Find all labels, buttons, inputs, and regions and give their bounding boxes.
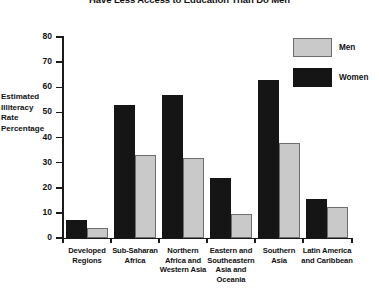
- bar-women-3: [162, 95, 183, 238]
- bar-men-3: [183, 158, 204, 238]
- y-axis-tick-label: 50: [22, 107, 52, 116]
- x-axis-category-label-line: Asia and: [200, 265, 262, 275]
- bar-women-6: [306, 199, 327, 238]
- x-axis-tick: [110, 238, 112, 243]
- y-axis-tick-label: 70: [22, 57, 52, 66]
- x-axis-tick: [158, 238, 160, 243]
- y-axis-tick-label: 40: [22, 133, 52, 142]
- x-axis-tick: [206, 238, 208, 243]
- bar-women-5: [258, 80, 279, 238]
- bar-men-1: [87, 228, 108, 238]
- y-axis-tick-label: 30: [22, 158, 52, 167]
- chart-title: Have Less Access to Education Than Do Me…: [0, 0, 379, 5]
- y-axis-tick-label: 80: [22, 32, 52, 41]
- illiteracy-rate-bar-chart: Have Less Access to Education Than Do Me…: [0, 0, 379, 290]
- bar-men-5: [279, 143, 300, 238]
- y-axis-tick-label: 10: [22, 208, 52, 217]
- y-axis-tick-label: 60: [22, 82, 52, 91]
- legend-swatch-men: [293, 38, 332, 57]
- bar-women-1: [66, 220, 87, 238]
- y-axis-tick-label: 0: [22, 233, 52, 242]
- bar-men-4: [231, 214, 252, 238]
- x-axis-category-label-line: Latin America: [296, 246, 358, 256]
- legend-label-women: Women: [339, 73, 368, 82]
- x-axis-tick-end: [351, 238, 353, 243]
- legend-swatch-women: [293, 68, 332, 87]
- legend-label-men: Men: [339, 43, 355, 52]
- x-axis-tick: [62, 238, 64, 243]
- bar-men-2: [135, 155, 156, 238]
- bar-women-2: [114, 105, 135, 238]
- bar-women-4: [210, 178, 231, 238]
- x-axis-category-label: Latin Americaand Caribbean: [296, 246, 358, 265]
- y-axis-tick-label: 20: [22, 183, 52, 192]
- x-axis-tick: [302, 238, 304, 243]
- x-axis-tick: [254, 238, 256, 243]
- x-axis-category-label-line: and Caribbean: [296, 256, 358, 266]
- x-axis-category-label-line: Oceania: [200, 275, 262, 285]
- bar-men-6: [327, 207, 348, 238]
- y-axis-label-line: Estimated: [1, 92, 49, 103]
